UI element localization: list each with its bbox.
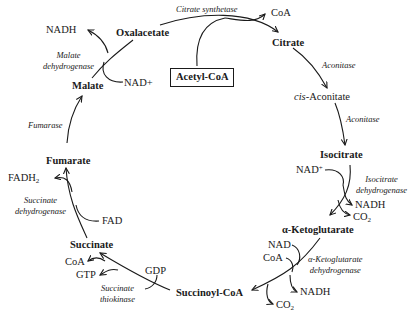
- oxalacetate-label: Oxalacetate: [116, 28, 169, 39]
- nadh-isocitrate: NADH: [355, 200, 385, 211]
- cis-aconitate-label: cis-Aconitate: [294, 92, 350, 103]
- enzyme-citrate-synthetase: Citrate synthetase: [176, 4, 238, 15]
- enzyme-line: Succinate: [100, 283, 135, 294]
- enzyme-succinate-dehydrogenase: Succinatedehydrogenase: [15, 195, 66, 216]
- nadh-malate: NADH: [46, 25, 76, 36]
- isocitrate-label: Isocitrate: [320, 150, 363, 161]
- enzyme-line: dehydrogenase: [15, 206, 66, 217]
- gtp: GTP: [76, 270, 96, 281]
- alpha-ketoglutarate-label: α-Ketoglutarate: [282, 225, 354, 236]
- enzyme-isocitrate-dehydrogenase: Isocitratedehydrogenase: [356, 174, 407, 195]
- enzyme-line: dehydrogenase: [308, 265, 363, 276]
- acetyl-coa-box: Acetyl-CoA: [170, 68, 234, 87]
- fumarate-label: Fumarate: [46, 156, 90, 167]
- coa-released-citrate: CoA: [271, 8, 291, 19]
- enzyme-line: dehydrogenase: [356, 185, 407, 196]
- co2-text: CO: [276, 299, 291, 310]
- malate-label: Malate: [72, 81, 104, 92]
- succinoyl-coa-label: Succinoyl-CoA: [176, 288, 243, 299]
- gdp: GDP: [145, 266, 166, 277]
- fad: FAD: [102, 216, 122, 227]
- enzyme-aconitase-2: Aconitase: [346, 114, 380, 125]
- aconitate-suffix: -Aconitate: [306, 91, 350, 102]
- citrate-label: Citrate: [272, 38, 304, 49]
- subscript-2: 2: [368, 216, 372, 224]
- enzyme-line: Malate: [43, 50, 94, 61]
- fadh2: FADH2: [8, 173, 39, 184]
- coa-akg: CoA: [263, 253, 283, 264]
- subscript-2: 2: [36, 177, 40, 185]
- coa-succinate: CoA: [65, 257, 85, 268]
- nad-isocitrate: NAD+: [296, 165, 323, 176]
- nad-akg: NAD: [268, 240, 291, 251]
- enzyme-line: dehydrogenase: [43, 61, 94, 72]
- enzyme-succinate-thiokinase: Succinatethiokinase: [100, 283, 135, 304]
- enzyme-line: thiokinase: [100, 294, 135, 305]
- plus-superscript: +: [319, 164, 323, 172]
- cis-prefix: cis: [294, 91, 306, 102]
- nadh-akg: NADH: [300, 287, 330, 298]
- enzyme-line: Isocitrate: [356, 174, 407, 185]
- enzyme-akg-dehydrogenase: α-Ketoglutaratedehydrogenase: [308, 254, 363, 275]
- nad-text: NAD: [296, 164, 319, 175]
- nad-malate: NAD+: [124, 78, 153, 89]
- fadh-text: FADH: [8, 172, 36, 183]
- citric-acid-cycle-diagram: Acetyl-CoA Oxalacetate Citrate cis-Aconi…: [0, 0, 408, 321]
- co2-akg: CO2: [276, 300, 294, 311]
- subscript-2: 2: [291, 304, 295, 312]
- enzyme-fumarase: Fumarase: [28, 120, 62, 131]
- enzyme-line: Succinate: [15, 195, 66, 206]
- enzyme-malate-dehydrogenase: Malatedehydrogenase: [43, 50, 94, 71]
- enzyme-aconitase-1: Aconitase: [322, 60, 356, 71]
- succinate-label: Succinate: [70, 240, 113, 251]
- co2-text: CO: [353, 211, 368, 222]
- enzyme-line: α-Ketoglutarate: [308, 254, 363, 265]
- co2-isocitrate: CO2: [353, 212, 371, 223]
